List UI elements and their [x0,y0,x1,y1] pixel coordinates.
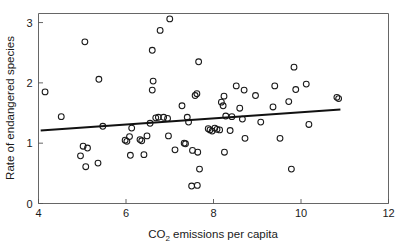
y-tick-label: 2 [26,77,32,89]
figure-background [0,0,409,247]
x-tick-label: 6 [123,207,129,219]
x-tick-label: 4 [35,207,41,219]
x-tick-label: 12 [382,207,394,219]
x-tick-label: 8 [210,207,216,219]
x-tick-label: 10 [295,207,307,219]
y-tick-label: 0 [26,198,32,210]
y-tick-label: 3 [26,17,32,29]
scatter-chart-figure: 4681012 0123 CO2 emissions per capita Ra… [0,0,409,247]
y-axis-title: Rate of endangered species [4,36,16,180]
y-tick-label: 1 [26,137,32,149]
plot-canvas: 4681012 0123 CO2 emissions per capita Ra… [0,0,409,247]
